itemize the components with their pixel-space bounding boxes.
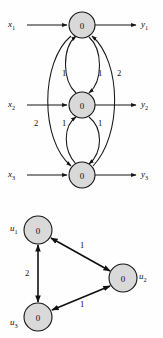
input-label-x1: x1 <box>7 19 15 30</box>
node-n3[interactable]: 0 <box>69 162 95 188</box>
bottom-graph-edges <box>38 238 110 310</box>
edge-n3-to-n2 <box>66 117 76 164</box>
input-labels: x1 x2 x3 <box>7 19 15 180</box>
output-label-y2: y2 <box>140 99 148 110</box>
top-graph: 0 0 0 x1 x2 x3 y1 y2 <box>7 12 148 188</box>
input-label-x2: x2 <box>7 99 15 110</box>
weight-u1-u3: 2 <box>25 268 29 278</box>
bottom-graph-nodes: 0 0 0 <box>24 216 137 331</box>
node-u2[interactable]: 0 <box>109 264 137 292</box>
edge-n1-to-n2 <box>89 37 100 93</box>
bottom-graph-weights: 1 2 1 <box>25 240 84 309</box>
node-n3-value: 0 <box>80 171 85 181</box>
graph-figure-svg: 0 0 0 x1 x2 x3 y1 y2 <box>0 0 163 338</box>
node-n2-value: 0 <box>80 101 85 111</box>
node-n1-value: 0 <box>80 21 85 31</box>
node-label-u2: u2 <box>139 271 147 282</box>
edge-n2-to-n1 <box>66 36 77 93</box>
node-n1[interactable]: 0 <box>69 12 95 38</box>
bottom-graph: 0 0 0 u1 u2 u3 1 2 1 <box>10 216 147 331</box>
weight-n2-n1-left: 1 <box>62 68 66 78</box>
weight-n1-n2-right: 1 <box>98 68 102 78</box>
node-label-u3: u3 <box>10 317 18 328</box>
weight-n2-n3-right: 1 <box>98 118 102 128</box>
node-n2[interactable]: 0 <box>69 92 95 118</box>
weight-n1-n3-outer-left: 2 <box>34 118 38 128</box>
weight-n3-n2-left: 1 <box>62 118 66 128</box>
output-labels: y1 y2 y3 <box>140 19 148 180</box>
output-label-y1: y1 <box>140 19 148 30</box>
weight-u3-u2: 1 <box>80 299 84 309</box>
node-u1-value: 0 <box>36 226 41 236</box>
node-u3[interactable]: 0 <box>24 303 52 331</box>
weight-u1-u2: 1 <box>80 240 84 250</box>
node-label-u1: u1 <box>10 223 18 234</box>
node-u2-value: 0 <box>121 274 126 284</box>
input-label-x3: x3 <box>7 169 15 180</box>
weight-n3-n1-outer-right: 2 <box>117 68 121 78</box>
figure-root: 0 0 0 x1 x2 x3 y1 y2 <box>0 0 163 338</box>
edge-n3-to-n1-outer-right <box>92 36 115 166</box>
output-label-y3: y3 <box>140 169 148 180</box>
node-u3-value: 0 <box>36 313 41 323</box>
node-u1[interactable]: 0 <box>24 216 52 244</box>
